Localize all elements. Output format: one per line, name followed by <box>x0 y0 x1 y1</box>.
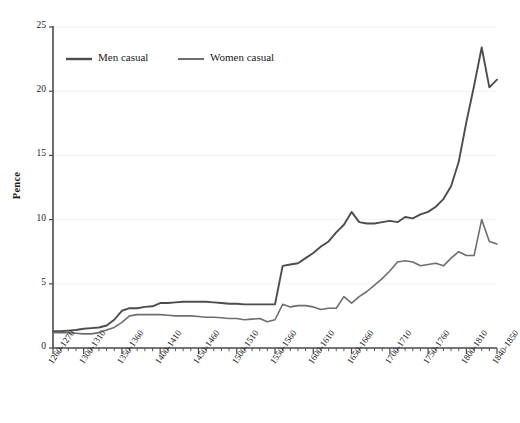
y-tick-label: 25 <box>18 20 46 30</box>
legend-label-1: Men casual <box>98 51 148 63</box>
y-tick-label: 20 <box>18 84 46 94</box>
series-line-1 <box>53 48 497 332</box>
y-tick-label: 10 <box>18 213 46 223</box>
y-axis-title: Pence <box>11 155 22 215</box>
legend-label-2: Women casual <box>210 51 274 63</box>
y-tick-label: 0 <box>18 341 46 351</box>
series-line-2 <box>53 220 497 334</box>
gridlines <box>53 27 497 284</box>
y-tick-label: 5 <box>18 277 46 287</box>
y-tick-label: 15 <box>18 148 46 158</box>
